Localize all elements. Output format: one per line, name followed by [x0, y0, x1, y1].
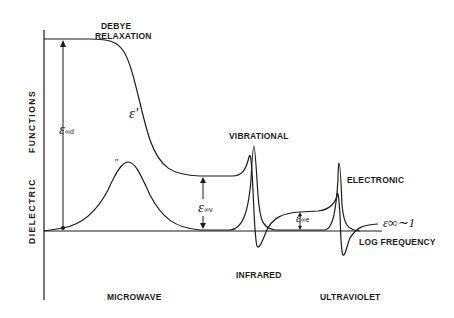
eps-inf-d-label: ε∞d [59, 121, 74, 138]
y-axis-label-top: FUNCTIONS [27, 90, 37, 153]
arrow-base-dot [61, 226, 65, 230]
vibrational-label: VIBRATIONAL [229, 131, 289, 141]
debye-label-line2: RELAXATION [95, 31, 152, 41]
arrowhead-up [60, 40, 66, 47]
arrowhead-up [200, 177, 206, 183]
eps-subscript: ∞d [65, 128, 74, 135]
region-microwave: MICROWAVE [107, 292, 162, 302]
debye-label-line1: DEBYE [101, 21, 131, 31]
eps-inf-approx-label: ε∞∼1 [383, 215, 415, 231]
arrowhead-down [200, 223, 206, 229]
region-ultraviolet: ULTRAVIOLET [320, 292, 380, 302]
eps-inf-v-label: ε∞v [198, 199, 212, 216]
region-infrared: INFRARED [236, 270, 282, 280]
epsilon-double-prime-label: " [114, 157, 118, 168]
eps-subscript: ∞v [204, 206, 213, 213]
dielectric-diagram [0, 0, 454, 318]
epsilon-prime-label: ε' [129, 105, 138, 122]
electronic-label: ELECTRONIC [347, 175, 404, 185]
eps-subscript: ∞e [301, 216, 310, 223]
y-axis-label-bottom: DIELECTRIC [27, 178, 37, 244]
x-axis-label: LOG FREQUENCY [359, 237, 436, 247]
epsilon-double-prime-curve [44, 146, 360, 231]
eps-inf-e-label: ε∞e [296, 211, 310, 226]
epsilon-prime-curve [44, 39, 378, 255]
